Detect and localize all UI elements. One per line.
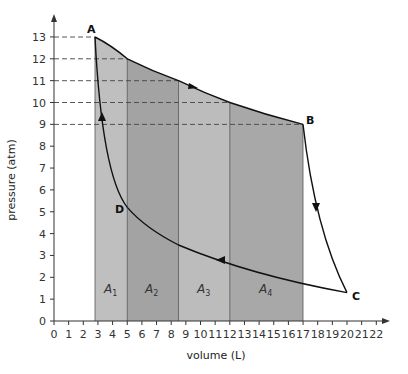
y-tick-label: 0 bbox=[39, 315, 46, 328]
x-axis-arrow-icon bbox=[382, 318, 390, 324]
x-tick-label: 8 bbox=[168, 328, 175, 341]
x-tick-label: 3 bbox=[94, 328, 101, 341]
x-tick-label: 21 bbox=[355, 328, 369, 341]
x-tick-label: 19 bbox=[325, 328, 339, 341]
x-tick-label: 1 bbox=[65, 328, 72, 341]
y-tick-label: 9 bbox=[39, 118, 46, 131]
x-tick-label: 7 bbox=[153, 328, 160, 341]
x-tick-label: 15 bbox=[267, 328, 281, 341]
y-tick-label: 3 bbox=[39, 249, 46, 262]
x-tick-label: 6 bbox=[138, 328, 145, 341]
x-tick-label: 14 bbox=[252, 328, 266, 341]
x-tick-label: 16 bbox=[281, 328, 295, 341]
x-tick-label: 4 bbox=[109, 328, 116, 341]
y-tick-label: 12 bbox=[32, 53, 46, 66]
x-ticks: 012345678910111213141516171819202122 bbox=[51, 321, 384, 341]
x-tick-label: 11 bbox=[208, 328, 222, 341]
y-tick-label: 13 bbox=[32, 31, 46, 44]
point-b-label: B bbox=[306, 114, 314, 127]
x-tick-label: 10 bbox=[194, 328, 208, 341]
y-tick-label: 4 bbox=[39, 228, 46, 241]
x-tick-label: 0 bbox=[51, 328, 58, 341]
y-tick-label: 1 bbox=[39, 293, 46, 306]
point-c-label: C bbox=[352, 290, 360, 303]
x-tick-label: 9 bbox=[182, 328, 189, 341]
x-tick-label: 17 bbox=[296, 328, 310, 341]
x-tick-label: 22 bbox=[369, 328, 383, 341]
x-tick-label: 12 bbox=[223, 328, 237, 341]
y-tick-label: 11 bbox=[32, 75, 46, 88]
y-tick-label: 6 bbox=[39, 184, 46, 197]
y-axis-arrow-icon bbox=[51, 14, 57, 22]
shaded-areas bbox=[95, 37, 303, 321]
area-a1 bbox=[95, 37, 127, 321]
x-tick-label: 2 bbox=[80, 328, 87, 341]
x-tick-label: 13 bbox=[237, 328, 251, 341]
point-d-label: D bbox=[115, 203, 124, 216]
point-a-label: A bbox=[87, 23, 96, 36]
curve-b-c bbox=[303, 124, 347, 292]
arrow-a-b-icon bbox=[188, 83, 198, 89]
y-tick-label: 2 bbox=[39, 271, 46, 284]
y-tick-label: 5 bbox=[39, 206, 46, 219]
x-tick-label: 18 bbox=[311, 328, 325, 341]
y-tick-label: 7 bbox=[39, 162, 46, 175]
y-tick-label: 10 bbox=[32, 97, 46, 110]
pv-diagram: 012345678910111213141516171819202122 012… bbox=[0, 0, 408, 374]
x-tick-label: 5 bbox=[124, 328, 131, 341]
arrow-b-c-icon bbox=[312, 203, 320, 212]
y-tick-label: 8 bbox=[39, 140, 46, 153]
y-axis-title: pressure (atm) bbox=[5, 139, 18, 220]
x-axis-title: volume (L) bbox=[187, 349, 246, 362]
x-tick-label: 20 bbox=[340, 328, 354, 341]
y-ticks: 012345678910111213 bbox=[32, 31, 54, 328]
